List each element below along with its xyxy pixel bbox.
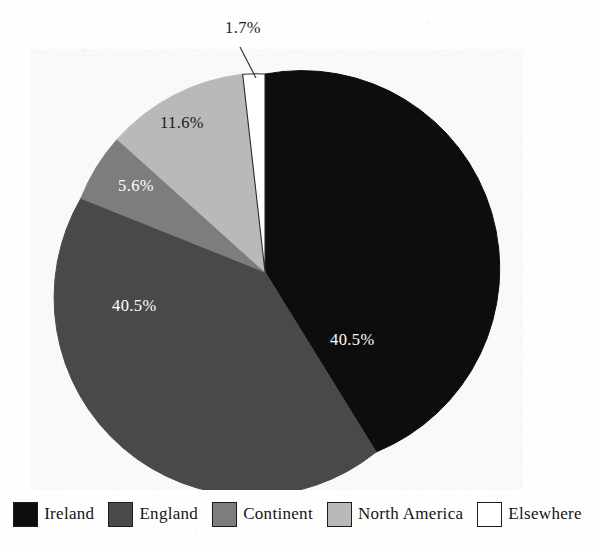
legend-swatch-elsewhere (477, 502, 502, 527)
legend-swatch-ireland (13, 502, 38, 527)
slice-value-north-america: 11.6% (160, 113, 204, 133)
legend-label-elsewhere: Elsewhere (508, 504, 582, 524)
chart-legend: Ireland England Continent North America … (0, 494, 595, 534)
slice-value-continent: 5.6% (118, 176, 154, 196)
legend-item-north-america[interactable]: North America (327, 502, 463, 527)
legend-label-north-america: North America (358, 504, 463, 524)
legend-item-elsewhere[interactable]: Elsewhere (477, 502, 582, 527)
legend-label-continent: Continent (243, 504, 313, 524)
legend-item-continent[interactable]: Continent (212, 502, 313, 527)
leader-line-elsewhere (240, 47, 256, 78)
legend-swatch-england (108, 502, 133, 527)
legend-label-ireland: Ireland (44, 504, 94, 524)
pie-chart-graphic (0, 0, 595, 490)
legend-label-england: England (139, 504, 198, 524)
slice-value-ireland: 40.5% (330, 330, 375, 350)
legend-swatch-north-america (327, 502, 352, 527)
slice-value-elsewhere: 1.7% (225, 18, 261, 38)
legend-swatch-continent (212, 502, 237, 527)
pie-chart: 40.5% 40.5% 5.6% 11.6% 1.7% (0, 0, 595, 490)
legend-item-england[interactable]: England (108, 502, 198, 527)
slice-value-england: 40.5% (112, 296, 157, 316)
legend-item-ireland[interactable]: Ireland (13, 502, 94, 527)
